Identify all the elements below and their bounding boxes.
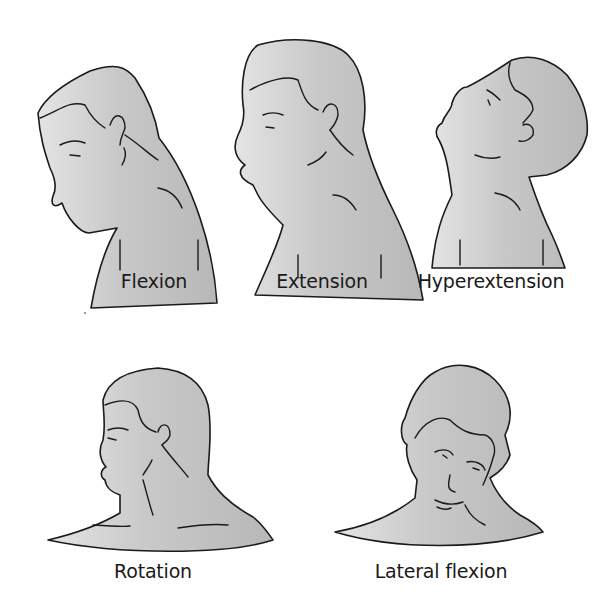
- label-hyperextension: Hyperextension: [418, 270, 565, 292]
- panel-extension: [238, 50, 418, 275]
- panel-rotation: [48, 370, 273, 555]
- extension-illustration: [238, 50, 418, 275]
- label-lateral-flexion: Lateral flexion: [375, 560, 508, 582]
- lateral-flexion-illustration: [335, 380, 545, 555]
- rotation-illustration: [48, 370, 273, 555]
- hyperextension-illustration: [415, 55, 595, 275]
- label-rotation: Rotation: [114, 560, 192, 582]
- panel-flexion: [30, 60, 230, 275]
- label-extension: Extension: [276, 270, 367, 292]
- label-flexion: Flexion: [121, 270, 187, 292]
- flexion-illustration: [30, 60, 230, 275]
- panel-lateral-flexion: [335, 380, 545, 555]
- panel-hyperextension: [415, 55, 595, 275]
